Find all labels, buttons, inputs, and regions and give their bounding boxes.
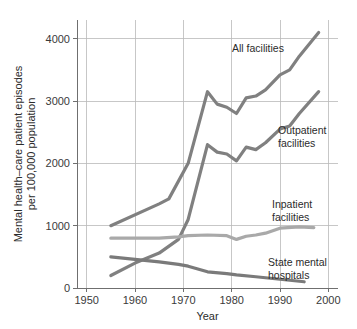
- gridlines: [77, 20, 338, 288]
- x-tick-label: 1990: [268, 294, 292, 306]
- series-annotation-label: All facilities: [232, 42, 284, 54]
- series-line-inpatient-facilities: [111, 227, 314, 239]
- data-series-lines: [111, 32, 319, 281]
- series-annotation-label: hospitals: [268, 269, 309, 281]
- y-tick-label: 3000: [46, 95, 70, 107]
- y-tick-label: 1000: [46, 220, 70, 232]
- line-chart: 01000200030004000 1950196019701980199020…: [0, 0, 357, 329]
- series-line-outpatient-facilities: [111, 92, 319, 276]
- chart-container: 01000200030004000 1950196019701980199020…: [0, 0, 357, 329]
- x-tick-label: 1960: [123, 294, 147, 306]
- series-annotation-label: facilities: [272, 211, 309, 223]
- y-tick-label: 2000: [46, 157, 70, 169]
- series-annotation-label: Outpatient: [278, 124, 327, 136]
- x-tick-label: 1970: [171, 294, 195, 306]
- x-axis-tick-labels: 195019601970198019902000: [74, 288, 340, 306]
- y-tick-label: 0: [64, 282, 70, 294]
- series-annotation-label: State mental: [268, 256, 327, 268]
- y-axis-title-line: Mental health–care patient episodes: [12, 65, 24, 242]
- series-annotations: All facilitiesOutpatientfacilitiesInpati…: [232, 42, 327, 281]
- x-axis-title: Year: [196, 310, 219, 322]
- x-tick-label: 2000: [316, 294, 340, 306]
- y-axis-tick-labels: 01000200030004000: [46, 33, 77, 294]
- y-axis-title: Mental health–care patient episodesper 1…: [12, 65, 37, 242]
- y-axis-title-line: per 100,000 population: [25, 98, 37, 211]
- x-tick-label: 1980: [219, 294, 243, 306]
- series-annotation-label: Inpatient: [272, 198, 312, 210]
- x-axis-title: Year: [196, 310, 219, 322]
- y-tick-label: 4000: [46, 33, 70, 45]
- series-annotation-label: facilities: [278, 137, 315, 149]
- x-tick-label: 1950: [74, 294, 98, 306]
- axis-spines: [77, 20, 338, 288]
